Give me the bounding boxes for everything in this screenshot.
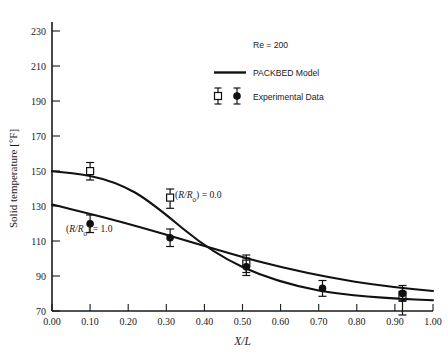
model-curve-ratio-one	[52, 205, 433, 292]
x-tick-label: 0.20	[119, 316, 137, 327]
legend-model-label: PACKBED Model	[253, 68, 319, 78]
x-tick-label: 0.00	[43, 316, 61, 327]
x-tick-label: 0.40	[196, 316, 214, 327]
x-axis-ticks	[52, 304, 433, 311]
y-tick-label: 150	[31, 166, 46, 177]
x-tick-label: 0.90	[386, 316, 404, 327]
svg-text:(R/R0) = 1.0: (R/R0) = 1.0	[66, 223, 113, 238]
y-tick-label: 230	[31, 26, 46, 37]
annot-zero-value: ) = 0.0	[196, 189, 222, 201]
annot-one-symbol: R/R	[68, 223, 84, 234]
annotation-ratio-zero: (R/R0) = 0.0	[175, 189, 222, 204]
solid-temperature-chart: 70 90 110 130 150 170 190 210 230 0.0	[0, 0, 448, 362]
data-point-filled	[166, 229, 174, 247]
experimental-filled-series	[86, 215, 406, 301]
y-axis-tick-labels: 70 90 110 130 150 170 190 210 230	[31, 26, 46, 317]
y-tick-label: 110	[31, 236, 46, 247]
y-tick-label: 210	[31, 61, 46, 72]
legend: Re = 200 PACKBED Model Experimental Data	[214, 40, 324, 104]
model-curve-ratio-zero	[52, 171, 433, 300]
x-tick-label: 0.10	[81, 316, 99, 327]
annot-one-value: ) = 1.0	[87, 223, 113, 235]
x-tick-label: 0.70	[310, 316, 328, 327]
x-tick-label: 0.80	[348, 316, 366, 327]
x-tick-label: 1.00	[424, 316, 442, 327]
x-axis-tick-labels: 0.00 0.10 0.20 0.30 0.40 0.50 0.60 0.70 …	[43, 316, 442, 327]
annot-zero-symbol: R/R	[177, 189, 193, 200]
legend-filled-marker-icon	[234, 88, 241, 104]
y-tick-label: 190	[31, 96, 46, 107]
x-axis-title-text: X/L	[233, 335, 251, 347]
y-axis-title: Solid temperature [°F]	[7, 129, 19, 228]
y-tick-label: 170	[31, 131, 46, 142]
y-tick-label: 130	[31, 201, 46, 212]
y-tick-label: 70	[36, 306, 46, 317]
experimental-open-series	[86, 163, 406, 316]
legend-open-marker-icon	[215, 88, 222, 104]
chart-figure: 70 90 110 130 150 170 190 210 230 0.0	[0, 0, 448, 362]
x-axis-title: X/L	[233, 335, 251, 347]
y-tick-label: 90	[36, 271, 46, 282]
annotation-ratio-one: (R/R0) = 1.0	[66, 223, 113, 238]
x-tick-label: 0.30	[158, 316, 176, 327]
legend-condition: Re = 200	[253, 40, 288, 50]
x-tick-label: 0.50	[234, 316, 252, 327]
legend-data-label: Experimental Data	[253, 92, 324, 102]
svg-text:(R/R0) = 0.0: (R/R0) = 0.0	[175, 189, 222, 204]
data-point-filled	[319, 281, 327, 297]
data-point-open	[166, 189, 174, 208]
x-tick-label: 0.60	[272, 316, 290, 327]
